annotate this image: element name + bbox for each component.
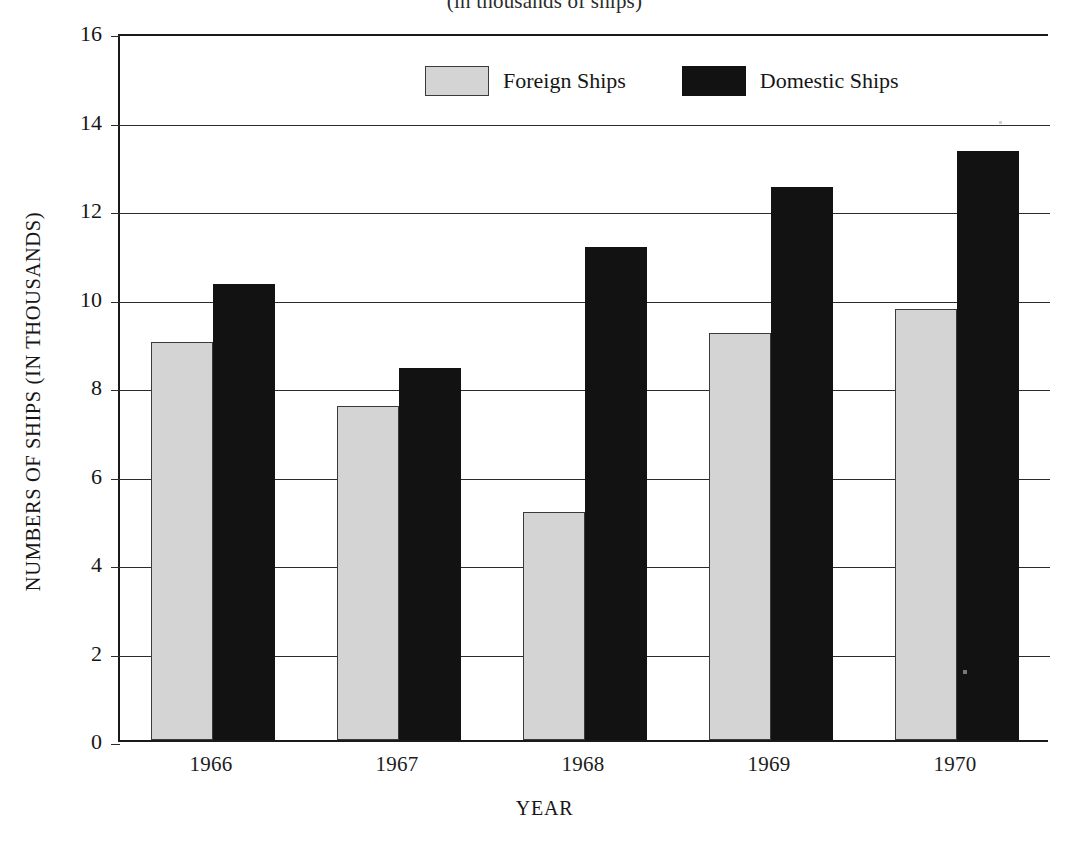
- gridline: [120, 125, 1050, 126]
- bar-domestic-1966: [213, 284, 275, 740]
- bar-domestic-1968: [585, 247, 647, 740]
- y-axis-tick: [111, 302, 120, 303]
- legend-label-foreign: Foreign Ships: [503, 68, 626, 94]
- legend-entry-domestic: Domestic Ships: [682, 66, 899, 96]
- y-axis-tick-label: 12: [62, 198, 102, 224]
- y-axis-tick: [111, 744, 120, 745]
- bar-foreign-1967: [337, 406, 399, 740]
- y-axis-tick-label: 16: [62, 21, 102, 47]
- plot-area: [118, 34, 1048, 742]
- scan-artifact: [963, 670, 967, 674]
- y-axis-tick-label: 0: [62, 729, 102, 755]
- y-axis-tick-label: 4: [62, 552, 102, 578]
- bar-domestic-1970: [957, 151, 1019, 740]
- y-axis-tick-label: 10: [62, 287, 102, 313]
- chart-subtitle: (in thousands of ships): [0, 0, 1089, 14]
- y-axis-tick-label: 2: [62, 641, 102, 667]
- legend-entry-foreign: Foreign Ships: [425, 66, 626, 96]
- x-axis-tick-label: 1969: [676, 752, 862, 777]
- gridline: [120, 213, 1050, 214]
- legend-swatch-foreign-icon: [425, 66, 489, 96]
- y-axis-tick: [111, 390, 120, 391]
- scan-artifact: [999, 121, 1002, 124]
- y-axis-tick: [111, 213, 120, 214]
- y-axis-tick: [111, 656, 120, 657]
- x-axis-tick-label: 1968: [490, 752, 676, 777]
- y-axis-tick-label: 8: [62, 375, 102, 401]
- bar-foreign-1970: [895, 309, 957, 740]
- chart-legend: Foreign Ships Domestic Ships: [425, 66, 899, 96]
- legend-label-domestic: Domestic Ships: [760, 68, 899, 94]
- x-axis-tick-label: 1970: [862, 752, 1048, 777]
- bar-domestic-1967: [399, 368, 461, 740]
- bar-foreign-1969: [709, 333, 771, 740]
- bar-foreign-1968: [523, 512, 585, 740]
- y-axis-tick: [111, 479, 120, 480]
- x-axis-title: YEAR: [0, 797, 1089, 820]
- x-axis-tick-label: 1967: [304, 752, 490, 777]
- bar-foreign-1966: [151, 342, 213, 740]
- y-axis-tick-label: 6: [62, 464, 102, 490]
- y-axis-tick: [111, 125, 120, 126]
- y-axis-title: NUMBERS OF SHIPS (IN THOUSANDS): [22, 182, 45, 622]
- bar-domestic-1969: [771, 187, 833, 740]
- x-axis-tick-label: 1966: [118, 752, 304, 777]
- legend-swatch-domestic-icon: [682, 66, 746, 96]
- y-axis-tick: [111, 567, 120, 568]
- y-axis-tick: [111, 36, 120, 37]
- y-axis-tick-label: 14: [62, 110, 102, 136]
